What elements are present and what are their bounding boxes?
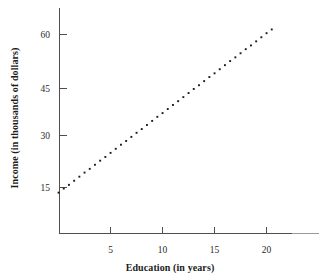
data-point [214, 72, 216, 74]
x-tick-label-20: 20 [262, 245, 272, 255]
data-point [229, 60, 231, 62]
y-tick-label-60: 60 [41, 30, 51, 40]
data-point [136, 132, 138, 134]
data-point [167, 108, 169, 110]
data-point [125, 140, 127, 142]
data-point [89, 168, 91, 170]
data-point [94, 164, 96, 166]
x-axis-title: Education (in years) [126, 262, 215, 274]
y-tick-label-45: 45 [41, 84, 51, 94]
data-point [240, 52, 242, 54]
data-point [250, 44, 252, 46]
data-point [68, 184, 70, 186]
data-point [193, 88, 195, 90]
data-point [151, 120, 153, 122]
data-point [156, 116, 158, 118]
data-point [120, 144, 122, 146]
data-point [188, 92, 190, 94]
data-point [84, 172, 86, 174]
data-series-dots [58, 29, 273, 194]
data-point [110, 152, 112, 154]
data-point [177, 100, 179, 102]
data-point [203, 80, 205, 82]
data-point [78, 176, 80, 178]
data-point [63, 188, 65, 190]
x-tick-label-5: 5 [108, 245, 113, 255]
data-point [245, 48, 247, 50]
data-point [255, 40, 257, 42]
data-point [104, 156, 106, 158]
y-tick-label-15: 15 [41, 183, 51, 193]
data-point [162, 112, 164, 114]
y-tick-label-30: 30 [41, 131, 51, 141]
data-point [182, 96, 184, 98]
data-point [73, 180, 75, 182]
data-point [172, 104, 174, 106]
data-point [208, 76, 210, 78]
data-point [115, 148, 117, 150]
data-point [224, 64, 226, 66]
data-point [219, 68, 221, 70]
data-point [146, 124, 148, 126]
chart-page: 60 45 30 15 5 10 15 20 Education (in yea… [0, 0, 326, 278]
scatter-plot: 60 45 30 15 5 10 15 20 Education (in yea… [0, 0, 326, 278]
data-point [234, 56, 236, 58]
y-axis-title: Income (in thousands of dollars) [9, 48, 21, 189]
data-point [130, 136, 132, 138]
x-tick-label-10: 10 [158, 245, 168, 255]
data-point [99, 160, 101, 162]
data-point [141, 128, 143, 130]
data-point [58, 192, 60, 194]
data-point [260, 36, 262, 38]
x-tick-label-15: 15 [210, 245, 220, 255]
x-axis-ticks [111, 227, 267, 234]
data-point [266, 32, 268, 34]
y-axis-ticks [60, 35, 68, 188]
data-point [271, 29, 273, 31]
data-point [198, 84, 200, 86]
